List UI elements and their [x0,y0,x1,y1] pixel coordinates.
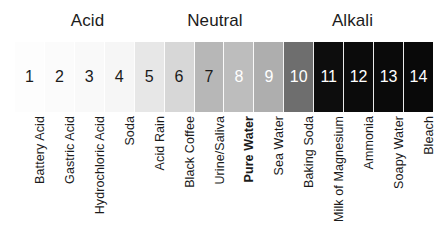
substance-column-12: Ammonia [343,114,373,252]
ph-cell-8: 8 [223,42,253,112]
ph-number-8: 8 [234,69,243,85]
ph-number-14: 14 [410,69,428,85]
category-label-neutral: Neutral [170,8,260,34]
category-header-row: Acid Neutral Alkali [0,8,447,34]
substance-column-9: Sea Water [254,114,284,252]
category-label-alkali: Alkali [310,8,395,34]
ph-cell-10: 10 [283,42,313,112]
substance-column-6: Black Coffee [164,114,194,252]
ph-cell-5: 5 [134,42,164,112]
ph-number-10: 10 [290,69,308,85]
ph-cell-3: 3 [74,42,104,112]
ph-number-13: 13 [380,69,398,85]
ph-cell-12: 12 [343,42,373,112]
ph-number-2: 2 [55,69,64,85]
substance-column-11: Milk of Magnesium [314,114,344,252]
ph-color-scale-bar: 1 2 3 4 5 6 7 8 9 10 11 [15,42,433,112]
category-label-acid: Acid [45,8,130,34]
ph-number-5: 5 [145,69,154,85]
substance-column-2: Gastric Acid [45,114,75,252]
ph-number-4: 4 [115,69,124,85]
substance-column-5: Acid Rain [134,114,164,252]
ph-number-6: 6 [175,69,184,85]
ph-scale-figure: Acid Neutral Alkali 1 2 3 4 5 6 7 8 9 [0,0,447,252]
ph-cell-9: 9 [253,42,283,112]
substance-column-14: Bleach [403,114,433,252]
ph-number-11: 11 [320,69,337,85]
substance-label-row: Battery Acid Gastric Acid Hydrochloric A… [15,114,433,252]
substance-column-1: Battery Acid [15,114,45,252]
ph-cell-14: 14 [403,42,433,112]
ph-cell-7: 7 [194,42,224,112]
substance-column-13: Soapy Water [373,114,403,252]
ph-number-12: 12 [350,69,368,85]
substance-column-3: Hydrochloric Acid [75,114,105,252]
ph-number-1: 1 [25,69,34,85]
substance-column-8: Pure Water [224,114,254,252]
substance-column-4: Soda [105,114,135,252]
ph-number-3: 3 [85,69,94,85]
substance-column-7: Urine/Saliva [194,114,224,252]
ph-cell-6: 6 [164,42,194,112]
ph-number-7: 7 [205,69,214,85]
ph-cell-13: 13 [373,42,403,112]
ph-cell-11: 11 [313,42,343,112]
ph-cell-4: 4 [104,42,134,112]
ph-number-9: 9 [264,69,273,85]
ph-cell-1: 1 [15,42,44,112]
ph-cell-2: 2 [44,42,74,112]
substance-label-bleach: Bleach [423,116,436,155]
substance-column-10: Baking Soda [284,114,314,252]
